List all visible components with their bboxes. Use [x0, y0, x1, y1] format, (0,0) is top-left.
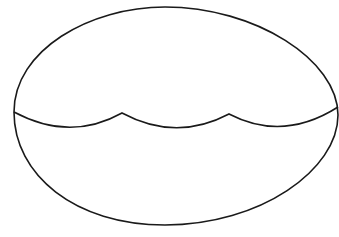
wavy-divider-line	[14, 107, 338, 128]
egg-drawing	[0, 0, 339, 237]
egg-outline	[14, 7, 338, 225]
drawing-canvas	[0, 0, 339, 237]
